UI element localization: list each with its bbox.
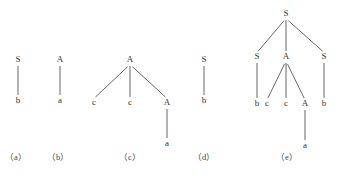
tree-node-S: S [254, 51, 259, 61]
tree-node-c: c [128, 97, 132, 107]
tree-edge [288, 21, 322, 51]
tree-node-S: S [201, 54, 206, 64]
tree-node-c: c [284, 98, 288, 108]
tree-caption-d: （d） [193, 152, 215, 162]
tree-node-a: a [58, 95, 62, 105]
tree-node-A: A [302, 98, 309, 108]
tree-node-A: A [57, 54, 64, 64]
parse-tree-diagram: SbAaAccAaSbSSASbccAba （a）（b）（c）（d）（e） [0, 0, 340, 178]
tree-node-A: A [283, 51, 290, 61]
tree-edges [18, 20, 324, 140]
tree-node-S: S [15, 54, 20, 64]
tree-node-b: b [16, 95, 21, 105]
tree-node-c: c [92, 97, 96, 107]
tree-caption-a: （a） [5, 152, 27, 162]
tree-captions: （a）（b）（c）（d）（e） [5, 152, 298, 162]
tree-node-b: b [322, 98, 327, 108]
tree-edge [268, 64, 285, 98]
tree-edge [132, 67, 165, 97]
tree-edge [287, 64, 304, 98]
tree-caption-e: （e） [276, 152, 298, 162]
tree-node-c: c [265, 98, 269, 108]
tree-node-S: S [283, 8, 288, 18]
tree-edge [96, 67, 128, 97]
tree-node-A: A [127, 54, 134, 64]
tree-node-A: A [164, 97, 171, 107]
tree-node-S: S [321, 51, 326, 61]
tree-node-b: b [202, 95, 207, 105]
tree-caption-c: （c） [119, 152, 141, 162]
tree-nodes: SbAaAccAaSbSSASbccAba [15, 8, 326, 150]
tree-node-a: a [165, 138, 169, 148]
tree-edge [258, 21, 284, 51]
tree-node-b: b [255, 98, 260, 108]
tree-caption-b: （b） [47, 152, 69, 162]
tree-node-a: a [303, 140, 307, 150]
